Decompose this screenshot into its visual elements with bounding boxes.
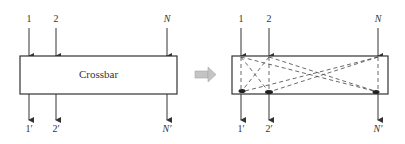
left-input-label-2: 2 [54,13,59,24]
crossbar-label: Crossbar [79,68,118,80]
right-crossbar: 1 2 N [232,13,388,134]
right-output-label-n: N′ [373,123,384,134]
right-input-label-n: N [374,13,383,24]
merge-point-n [373,90,380,94]
right-output-label-2: 2′ [265,123,272,134]
right-output-label-1: 1′ [237,123,244,134]
right-input-label-1: 1 [239,13,244,24]
merge-point-1 [239,89,246,93]
right-input-label-2: 2 [267,13,272,24]
crossbar-diagram: 1 2 N Crossbar 1′ 2′ N′ 1 [0,0,405,144]
right-arrow-icon [195,67,216,82]
left-input-label-1: 1 [27,13,32,24]
left-crossbar: 1 2 N Crossbar 1′ 2′ N′ [20,13,177,134]
left-output-label-1: 1′ [25,123,32,134]
left-output-label-2: 2′ [52,123,59,134]
left-input-label-n: N [163,13,172,24]
left-output-label-n: N′ [162,123,173,134]
merge-point-2 [265,90,273,94]
